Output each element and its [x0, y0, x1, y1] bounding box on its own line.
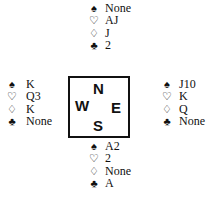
south-hearts: 2 [105, 152, 111, 164]
club-icon: ♣ [88, 177, 100, 189]
heart-icon: ♡ [161, 90, 173, 102]
diamond-icon: ♢ [88, 165, 100, 177]
diamond-icon: ♢ [6, 103, 18, 115]
compass-south-label: S [93, 118, 103, 133]
spade-icon: ♠ [161, 78, 173, 90]
diamond-icon: ♢ [88, 27, 100, 39]
compass-east-label: E [111, 100, 121, 115]
compass-west-label: W [75, 98, 89, 113]
north-hearts: AJ [105, 14, 118, 26]
north-clubs: 2 [105, 39, 111, 51]
east-hearts: K [179, 90, 188, 102]
south-clubs: A [105, 177, 114, 189]
west-hearts: Q3 [26, 90, 41, 102]
club-icon: ♣ [6, 115, 18, 127]
west-clubs: None [26, 115, 52, 127]
compass-north-label: N [93, 81, 104, 96]
club-icon: ♣ [88, 39, 100, 51]
compass-box: N W E S [68, 76, 130, 138]
spade-icon: ♠ [6, 78, 18, 90]
spade-icon: ♠ [88, 2, 100, 14]
east-clubs: None [179, 115, 205, 127]
club-icon: ♣ [161, 115, 173, 127]
diamond-icon: ♢ [161, 103, 173, 115]
spade-icon: ♠ [88, 140, 100, 152]
heart-icon: ♡ [88, 14, 100, 26]
heart-icon: ♡ [88, 152, 100, 164]
heart-icon: ♡ [6, 90, 18, 102]
